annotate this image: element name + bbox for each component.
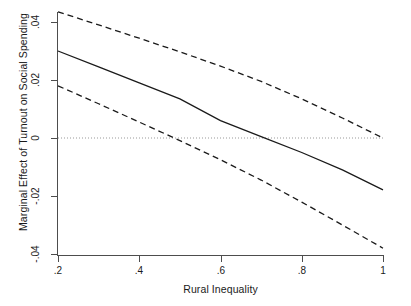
marginal-effects-plot: Marginal Effect of Turnout on Social Spe…	[0, 0, 411, 306]
plot-area	[0, 0, 411, 306]
upper-confidence-band-line	[58, 12, 383, 138]
marginal-effect-line	[58, 51, 383, 190]
